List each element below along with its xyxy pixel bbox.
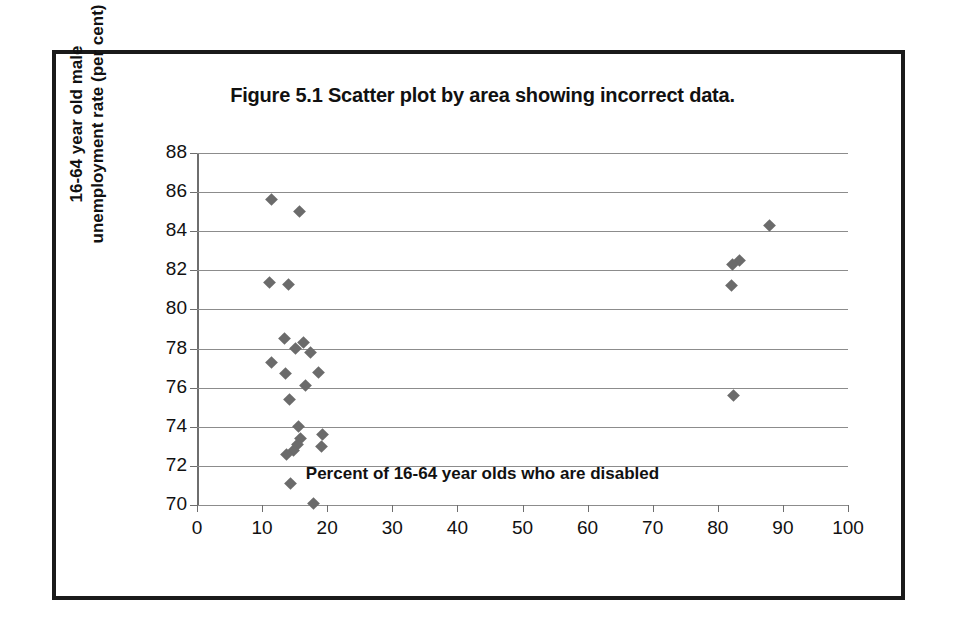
y-axis-tick-label: 70 bbox=[131, 493, 187, 515]
x-axis-tick bbox=[718, 505, 719, 512]
figure-frame: Figure 5.1 Scatter plot by area showing … bbox=[52, 50, 905, 600]
scatter-point bbox=[307, 497, 320, 510]
x-axis-tick bbox=[848, 505, 849, 512]
x-axis-tick-label: 30 bbox=[362, 517, 422, 539]
y-gridline bbox=[197, 192, 848, 193]
scatter-point bbox=[299, 379, 312, 392]
y-axis-tick-label: 76 bbox=[131, 376, 187, 398]
x-axis-title: Percent of 16-64 year olds who are disab… bbox=[56, 464, 909, 484]
x-axis-tick bbox=[783, 505, 784, 512]
plot-wrapper: 7072747678808284868801020304050607080901… bbox=[56, 54, 909, 604]
x-axis-tick-label: 0 bbox=[167, 517, 227, 539]
scatter-point bbox=[283, 393, 296, 406]
x-axis-tick-label: 50 bbox=[493, 517, 553, 539]
scatter-point bbox=[727, 389, 740, 402]
x-axis-tick bbox=[653, 505, 654, 512]
y-axis-tick bbox=[190, 309, 197, 310]
y-axis-tick-label: 88 bbox=[131, 141, 187, 163]
y-axis-tick-label: 78 bbox=[131, 337, 187, 359]
x-axis-tick-label: 40 bbox=[427, 517, 487, 539]
y-axis-tick-label: 86 bbox=[131, 180, 187, 202]
plot-area: 7072747678808284868801020304050607080901… bbox=[197, 153, 848, 505]
y-axis-tick bbox=[190, 153, 197, 154]
y-gridline bbox=[197, 388, 848, 389]
y-axis-tick bbox=[190, 192, 197, 193]
y-axis-tick bbox=[190, 231, 197, 232]
x-axis-tick-label: 80 bbox=[688, 517, 748, 539]
x-axis-tick-label: 10 bbox=[232, 517, 292, 539]
y-axis-tick bbox=[190, 349, 197, 350]
scatter-point bbox=[763, 219, 776, 232]
scatter-point bbox=[264, 276, 277, 289]
y-axis-tick bbox=[190, 270, 197, 271]
scatter-point bbox=[725, 280, 738, 293]
scatter-point bbox=[279, 332, 292, 345]
scatter-point bbox=[279, 368, 292, 381]
scatter-point bbox=[282, 278, 295, 291]
x-axis-tick bbox=[523, 505, 524, 512]
x-axis-tick-label: 90 bbox=[753, 517, 813, 539]
x-axis-tick bbox=[197, 505, 198, 512]
y-axis-tick bbox=[190, 388, 197, 389]
x-axis-tick bbox=[262, 505, 263, 512]
x-axis-tick-label: 100 bbox=[818, 517, 878, 539]
y-axis-tick-label: 84 bbox=[131, 219, 187, 241]
y-axis-tick-label: 74 bbox=[131, 415, 187, 437]
scatter-point bbox=[316, 428, 329, 441]
x-axis-tick-label: 60 bbox=[558, 517, 618, 539]
scatter-point bbox=[316, 440, 329, 453]
y-gridline bbox=[197, 309, 848, 310]
x-axis-tick bbox=[588, 505, 589, 512]
scatter-point bbox=[265, 356, 278, 369]
y-axis-title: 16-64 year old male unemployment rate (p… bbox=[66, 0, 106, 304]
y-axis-tick-label: 80 bbox=[131, 297, 187, 319]
x-axis-tick bbox=[327, 505, 328, 512]
x-axis-tick bbox=[392, 505, 393, 512]
scatter-point bbox=[265, 194, 278, 207]
y-axis-tick-label: 82 bbox=[131, 258, 187, 280]
y-gridline bbox=[197, 270, 848, 271]
y-gridline bbox=[197, 153, 848, 154]
x-axis-tick-label: 70 bbox=[623, 517, 683, 539]
scatter-point bbox=[292, 420, 305, 433]
y-axis-tick bbox=[190, 505, 197, 506]
scatter-point bbox=[312, 366, 325, 379]
x-axis-tick bbox=[457, 505, 458, 512]
y-axis-tick bbox=[190, 427, 197, 428]
x-axis-tick-label: 20 bbox=[297, 517, 357, 539]
scatter-point bbox=[293, 205, 306, 218]
y-gridline bbox=[197, 231, 848, 232]
